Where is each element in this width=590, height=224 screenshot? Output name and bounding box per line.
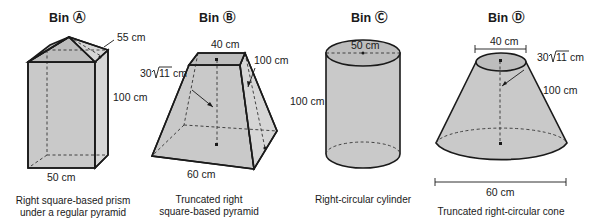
svg-text:30: 30 <box>537 51 549 63</box>
bin-c: Bin Ⓒ 50 cm 100 cm Right-circular cylind… <box>290 10 412 205</box>
bin-d-base-label: 60 cm <box>486 186 515 198</box>
bin-a-caption-2: under a regular pyramid <box>20 207 126 218</box>
bin-b-top-label: 40 cm <box>211 38 240 50</box>
bin-b-base-label: 60 cm <box>187 168 216 180</box>
bin-d-slant-label: 100 cm <box>543 84 578 96</box>
bin-a-prism-side <box>95 50 108 168</box>
bin-c-diameter-label: 50 cm <box>351 39 380 51</box>
bin-a: Bin Ⓐ 55 cm 100 cm 50 cm Right square-ba… <box>16 10 148 218</box>
bin-b-caption-1: Truncated right <box>176 194 243 205</box>
svg-text:11: 11 <box>159 67 170 79</box>
bin-b-caption-2: square-based pyramid <box>159 206 259 217</box>
bin-a-prism-front <box>28 62 95 168</box>
bin-b-height-label: 30 11 cm <box>140 67 187 79</box>
bin-a-title: Bin Ⓐ <box>49 10 86 25</box>
bin-b-title: Bin Ⓑ <box>199 10 236 25</box>
svg-text:30: 30 <box>140 67 152 79</box>
svg-text:cm: cm <box>570 51 584 63</box>
bin-d-title: Bin Ⓓ <box>488 10 525 25</box>
bin-b-slant-label: 100 cm <box>254 54 289 66</box>
bin-d: Bin Ⓓ 40 cm 30 11 cm 100 cm 60 cm Trunca… <box>435 10 584 217</box>
bin-c-height-label: 100 cm <box>290 95 325 107</box>
bin-a-slant-label: 55 cm <box>117 31 146 43</box>
bin-d-height-label: 30 11 cm <box>537 51 584 63</box>
bins-diagram: Bin Ⓐ 55 cm 100 cm 50 cm Right square-ba… <box>0 0 590 224</box>
svg-text:cm: cm <box>173 67 187 79</box>
bin-c-caption: Right-circular cylinder <box>315 194 412 205</box>
bin-d-caption: Truncated right-circular cone <box>438 206 565 217</box>
svg-text:11: 11 <box>556 51 567 63</box>
bin-a-caption-1: Right square-based prism <box>16 195 131 206</box>
bin-a-base-label: 50 cm <box>47 171 76 183</box>
bin-a-height-label: 100 cm <box>113 91 148 103</box>
bin-c-title: Bin Ⓒ <box>351 10 388 25</box>
bin-b: Bin Ⓑ 40 cm 30 11 cm 100 cm 60 cm <box>140 10 289 217</box>
bin-d-top-label: 40 cm <box>490 35 519 47</box>
bin-c-body <box>326 53 400 168</box>
